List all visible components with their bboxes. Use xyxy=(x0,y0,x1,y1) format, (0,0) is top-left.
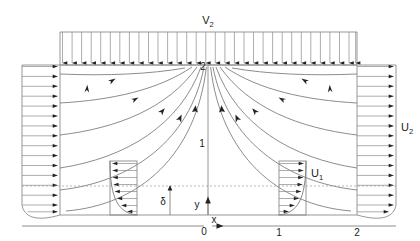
x-axis-arrowhead xyxy=(217,223,224,229)
figure-root: V2 U2 U1 δ y x 0 1 2 1 2 xyxy=(0,0,420,241)
bottom-wall-axis xyxy=(22,215,396,226)
label-x-axis: x xyxy=(212,214,217,225)
label-u2: U2 xyxy=(401,121,413,136)
label-center-top: 2 xyxy=(200,61,206,72)
velocity-profile-station-1-mirror xyxy=(110,161,137,215)
top-inflow-arrows xyxy=(63,32,356,63)
profile-arrows-station-1-mirror xyxy=(113,164,138,212)
left-inflow-block xyxy=(22,65,60,218)
label-y-axis: y xyxy=(195,199,200,210)
delta-dimension xyxy=(168,185,173,215)
right-outflow-block xyxy=(357,65,396,218)
velocity-profile-station-1 xyxy=(279,161,306,215)
streamline-arrowheads-left xyxy=(82,79,198,123)
left-inflow-arrows xyxy=(22,67,58,212)
label-delta: δ xyxy=(160,196,166,207)
y-axis-arrowhead xyxy=(205,197,211,204)
top-inflow-block xyxy=(60,32,357,65)
label-u1: U1 xyxy=(311,167,323,182)
domain-frame xyxy=(60,65,357,215)
streamline-arrowheads-right xyxy=(219,79,335,123)
streamlines-left xyxy=(60,67,206,211)
label-center-mid: 1 xyxy=(199,138,205,149)
label-station-2-bottom: 2 xyxy=(354,227,360,238)
streamlines-right xyxy=(211,67,357,211)
label-station-1-bottom: 1 xyxy=(276,227,282,238)
profile-arrows-station-1 xyxy=(279,164,304,212)
right-outflow-arrows xyxy=(357,67,394,212)
flow-field-diagram: V2 U2 U1 δ y x 0 1 2 1 2 xyxy=(0,0,420,241)
label-origin: 0 xyxy=(201,226,207,237)
label-v2: V2 xyxy=(202,14,214,29)
